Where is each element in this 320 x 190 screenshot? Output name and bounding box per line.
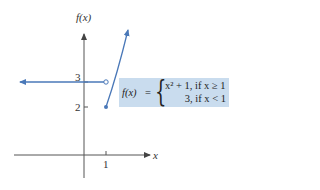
y-tick-label-2: 2 <box>75 102 81 113</box>
y-tick-label-3: 3 <box>75 72 81 83</box>
x-axis-label: x <box>153 150 158 161</box>
formula-case-1: x² + 1, if x ≥ 1 <box>165 80 226 91</box>
x-tick-label-1: 1 <box>103 159 109 170</box>
y-axis-label: f(x) <box>76 12 91 23</box>
open-circle-point <box>104 80 108 84</box>
formula-equals: = <box>145 87 151 98</box>
formula-lhs: f(x) <box>122 87 137 98</box>
formula-box: f(x) = { x² + 1, if x ≥ 1 3, if x < 1 <box>119 78 229 107</box>
closed-dot-point <box>104 105 108 109</box>
formula-case-2: 3, if x < 1 <box>185 93 226 104</box>
